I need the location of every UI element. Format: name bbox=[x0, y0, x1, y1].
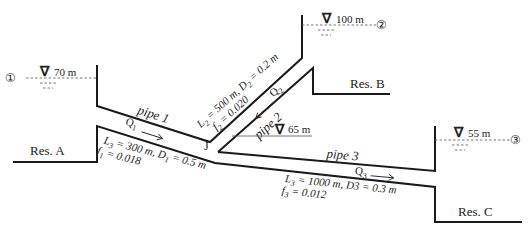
res-a-node-marker: ① bbox=[5, 71, 16, 85]
res-c-label: Res. C bbox=[458, 204, 493, 219]
pipe-1-annotations: pipe 1 Q1 bbox=[123, 100, 171, 142]
pipe-3-properties: L3 = 1000 m, D3 = 0.3 m f3 = 0.012 bbox=[281, 172, 397, 211]
water-level-icon: ∇ bbox=[39, 64, 50, 79]
res-a-label: Res. A bbox=[30, 143, 65, 158]
pipe-2-flow-label: Q2 bbox=[267, 82, 286, 101]
res-b-water-level: ∇ 100 m ② bbox=[302, 11, 387, 35]
res-c-level-label: 55 m bbox=[468, 127, 491, 139]
pipe-3-label: pipe 3 bbox=[325, 146, 360, 164]
res-b-node-marker: ② bbox=[376, 18, 387, 32]
flow-arrow-icon bbox=[371, 176, 394, 178]
res-a-level-label: 70 m bbox=[54, 66, 77, 78]
water-level-icon: ∇ bbox=[453, 125, 464, 140]
res-c-water-level: ∇ 55 m ③ bbox=[435, 125, 521, 150]
junction-level-label: 65 m bbox=[288, 123, 311, 135]
res-b-label: Res. B bbox=[350, 76, 385, 91]
pipe-1-label: pipe 1 bbox=[135, 102, 171, 126]
pipe-1-properties: L3 = 300 m, D1 = 0.5 m f1 = 0.018 bbox=[95, 133, 207, 186]
res-a-water-level: ∇ 70 m ① bbox=[5, 64, 97, 88]
water-level-icon: ∇ bbox=[321, 11, 332, 26]
three-reservoir-diagram: ∇ 70 m ① Res. A ∇ 100 m ② Res. B ∇ 55 m … bbox=[0, 0, 532, 234]
res-b-level-label: 100 m bbox=[336, 13, 364, 25]
pipe-1-flow-label: Q1 bbox=[123, 115, 139, 133]
res-c-node-marker: ③ bbox=[510, 133, 521, 147]
junction-label: J bbox=[204, 139, 209, 153]
